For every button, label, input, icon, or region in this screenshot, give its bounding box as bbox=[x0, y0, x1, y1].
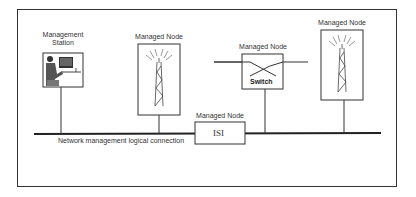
switch-inner-label: Switch bbox=[250, 78, 273, 85]
diagram-graphics bbox=[0, 0, 416, 197]
management-station-label: Management Station bbox=[38, 31, 88, 47]
tower-2-label: Managed Node bbox=[313, 19, 371, 27]
switch-node-label: Managed Node bbox=[234, 43, 292, 51]
isi-inner-label: ISI bbox=[213, 128, 224, 138]
radio-tower-icon-2 bbox=[321, 30, 363, 100]
management-station-icon bbox=[43, 53, 83, 87]
tower-1-label: Managed Node bbox=[130, 33, 188, 41]
radio-tower-icon-1 bbox=[138, 44, 180, 115]
isi-node-label: Managed Node bbox=[191, 112, 249, 120]
bus-label: Network management logical connection bbox=[58, 137, 184, 145]
